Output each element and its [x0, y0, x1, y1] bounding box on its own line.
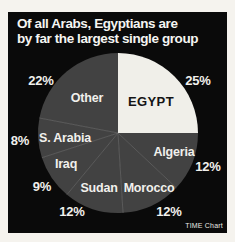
pct-label-other: 22%	[28, 73, 53, 88]
slice-label-sudan: Sudan	[80, 181, 117, 195]
chart-panel: Of all Arabs, Egyptians are by far the l…	[8, 12, 227, 233]
slice-label-algeria: Algeria	[154, 145, 195, 159]
pct-label-sudan: 12%	[59, 204, 84, 219]
slice-label-morocco: Morocco	[124, 181, 175, 195]
pct-label-s-arabia: 8%	[11, 133, 29, 148]
pie-chart	[8, 12, 227, 233]
slice-label-egypt: EGYPT	[128, 94, 174, 109]
source-credit: TIME Chart	[185, 222, 223, 229]
slice-label-s-arabia: S. Arabia	[39, 131, 91, 145]
pct-label-algeria: 12%	[195, 159, 220, 174]
slice-label-iraq: Iraq	[55, 157, 77, 171]
pct-label-iraq: 9%	[33, 179, 51, 194]
pct-label-morocco: 12%	[156, 204, 181, 219]
slice-label-other: Other	[71, 91, 103, 105]
pct-label-egypt: 25%	[185, 73, 210, 88]
magazine-chart-page: Of all Arabs, Egyptians are by far the l…	[0, 0, 235, 242]
